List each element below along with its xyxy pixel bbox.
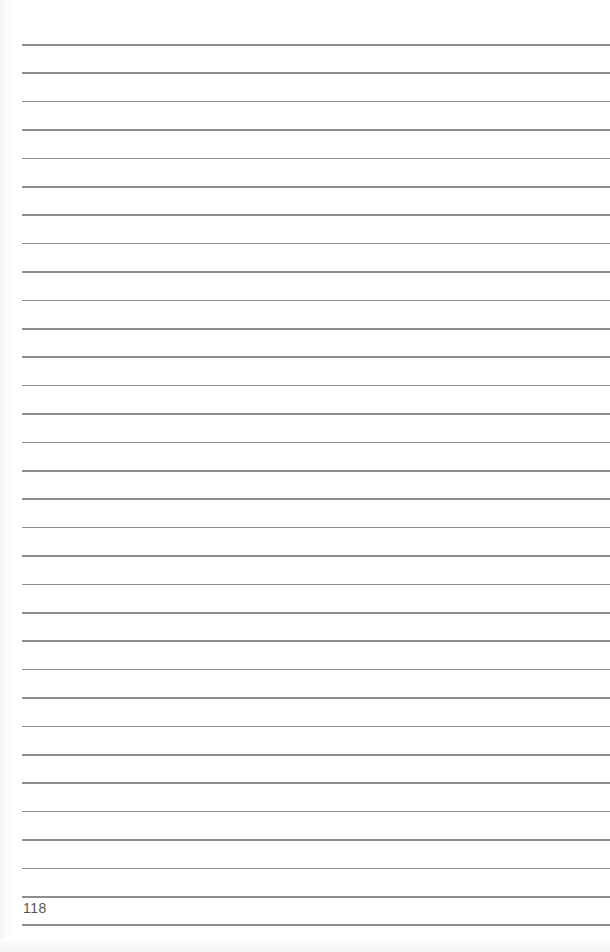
ruled-line: [22, 811, 610, 813]
ruled-line: [22, 896, 610, 898]
ruled-line: [22, 924, 610, 926]
ruled-line: [22, 101, 610, 103]
ruled-line: [22, 470, 610, 472]
ruled-line: [22, 555, 610, 557]
ruled-line: [22, 300, 610, 302]
ruled-line: [22, 527, 610, 529]
ruled-line: [22, 356, 610, 358]
notebook-page: 118: [0, 0, 610, 952]
ruled-line: [22, 328, 610, 330]
ruled-line: [22, 498, 610, 500]
page-bottom-edge: [0, 938, 610, 952]
ruled-line: [22, 243, 610, 245]
ruled-line: [22, 754, 610, 756]
ruled-line: [22, 271, 610, 273]
ruled-line: [22, 158, 610, 160]
ruled-line: [22, 697, 610, 699]
ruled-line: [22, 413, 610, 415]
ruled-line: [22, 669, 610, 671]
ruled-line: [22, 214, 610, 216]
ruled-line: [22, 129, 610, 131]
ruled-line: [22, 726, 610, 728]
ruled-line: [22, 640, 610, 642]
ruled-line: [22, 72, 610, 74]
ruled-line: [22, 612, 610, 614]
ruled-line: [22, 186, 610, 188]
ruled-line: [22, 868, 610, 870]
ruled-line: [22, 442, 610, 444]
ruled-line: [22, 44, 610, 46]
ruled-line: [22, 782, 610, 784]
page-number: 118: [23, 900, 47, 916]
ruled-line: [22, 385, 610, 387]
ruled-line: [22, 584, 610, 586]
ruled-line: [22, 839, 610, 841]
